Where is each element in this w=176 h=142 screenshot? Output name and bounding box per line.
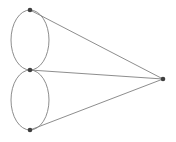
node-n1 <box>28 8 33 13</box>
node-n3 <box>28 128 33 133</box>
edge-n3-n4 <box>30 79 163 130</box>
nodes <box>28 8 166 133</box>
node-n2 <box>28 68 33 73</box>
edge-n2-n4 <box>30 70 163 79</box>
edge-n2-n3-loop <box>11 70 49 130</box>
edge-n1-n2-loop <box>11 10 49 70</box>
edges <box>11 10 163 130</box>
graph-diagram <box>0 0 176 142</box>
node-n4 <box>161 77 166 82</box>
edge-n1-n4 <box>30 10 163 79</box>
